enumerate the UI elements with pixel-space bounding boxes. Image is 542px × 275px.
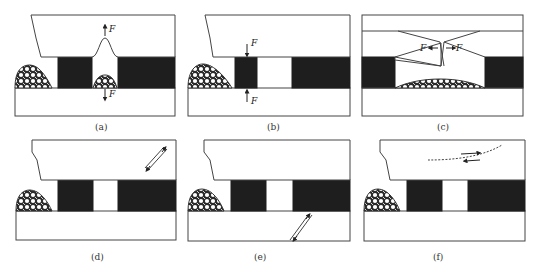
- coal-pillar-right: [292, 57, 350, 88]
- coal-pillar-left: [407, 180, 442, 211]
- force-label: F: [108, 89, 116, 99]
- figure: F F (a) F F (b) F F (c): [0, 0, 542, 275]
- roof-stratum: [205, 15, 350, 57]
- rubble-pile: [15, 65, 52, 88]
- coal-pillar-left: [58, 57, 92, 88]
- floor-stratum: [188, 211, 350, 241]
- floor-stratum: [364, 211, 525, 241]
- rubble-pile: [188, 189, 224, 211]
- force-label: F: [455, 43, 463, 53]
- rubble-pile: [16, 190, 52, 211]
- panel-b: F F (b): [188, 15, 350, 132]
- floor-stratum: [16, 211, 176, 240]
- coal-pillar-left: [231, 180, 266, 211]
- panel-e: (e): [188, 140, 350, 262]
- rubble-pile: [364, 189, 400, 211]
- panel-f: (f): [364, 140, 525, 262]
- panel-label: (b): [267, 122, 280, 132]
- panel-label: (f): [433, 252, 443, 262]
- panel-label: (e): [254, 252, 266, 262]
- panel-label: (c): [437, 122, 449, 132]
- roof-stratum: [204, 140, 350, 180]
- roof-stratum: [32, 140, 176, 180]
- coal-pillar-right: [118, 180, 176, 211]
- force-label: F: [419, 43, 427, 53]
- force-label: F: [108, 24, 116, 34]
- panel-label: (a): [95, 122, 107, 132]
- rubble-pile: [188, 64, 232, 88]
- roof-stratum: [380, 140, 525, 180]
- panel-label: (d): [91, 252, 104, 262]
- floor-stratum: [15, 88, 175, 116]
- panel-a: F F (a): [15, 15, 175, 132]
- panel-c: F F (c): [362, 15, 523, 132]
- coal-pillar-narrow: [235, 57, 257, 88]
- coal-pillar-left: [362, 57, 395, 88]
- floor-heave-rubble: [93, 75, 117, 88]
- coal-pillar-right: [293, 180, 350, 211]
- roof-stratum: [31, 15, 175, 57]
- coal-pillar-right: [118, 57, 175, 88]
- panel-d: (d): [16, 140, 176, 262]
- coal-pillar-right: [485, 57, 523, 88]
- coal-pillar-left: [58, 180, 93, 211]
- force-label: F: [250, 96, 258, 106]
- coal-pillar-right: [468, 180, 525, 211]
- force-label: F: [250, 38, 258, 48]
- floor-stratum: [188, 88, 350, 116]
